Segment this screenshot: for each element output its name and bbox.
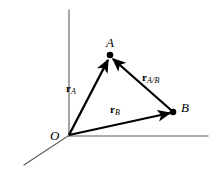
point-label-b: B [181,101,189,114]
vector-subscript: B [115,108,120,117]
vector-subscript: A/B [147,76,160,85]
point-label-o: O [50,129,59,142]
vector-arrow-r-a [69,60,108,135]
diagram-canvas [0,0,221,170]
vector-label-r-b: rB [110,104,120,117]
point-label-a: A [106,36,114,49]
oblique-axis [24,136,68,165]
point-marker-a [107,52,114,59]
vector-label-r-a-over-b: rA/B [142,72,160,85]
vector-diagram-figure: O A B rA rB rA/B [0,0,221,170]
vectors-group [69,59,171,135]
vector-subscript: A [71,87,76,96]
point-marker-b [170,109,177,116]
vector-label-r-a: rA [66,83,76,96]
